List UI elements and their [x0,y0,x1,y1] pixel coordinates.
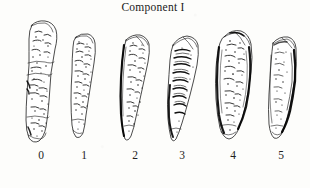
specimen-cell-2: 2 [110,0,160,172]
specimen-label-1: 1 [58,150,110,162]
specimen-drawing-1 [64,32,102,143]
specimen-label-5: 5 [256,150,306,162]
specimen-cell-4: 4 [206,0,260,172]
figure-plate: Component I [0,0,310,188]
specimen-drawing-3 [160,33,204,145]
specimen-drawing-2 [114,32,154,145]
specimen-label-4: 4 [206,150,260,162]
specimen-label-3: 3 [156,150,208,162]
specimen-drawing-4 [209,27,257,146]
specimen-row: 0 [0,0,310,188]
specimen-label-2: 2 [110,150,160,162]
specimen-drawing-5 [260,33,302,145]
specimen-cell-3: 3 [156,0,208,172]
specimen-cell-5: 5 [256,0,306,172]
specimen-cell-1: 1 [58,0,110,172]
